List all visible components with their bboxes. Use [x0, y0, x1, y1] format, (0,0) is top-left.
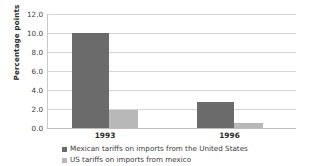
x-tick-label: 1993 [95, 131, 116, 140]
legend-item[interactable]: Mexican tariffs on imports from the Unit… [62, 144, 302, 154]
legend-item[interactable]: US tariffs on imports from mexico [62, 155, 302, 165]
bar [109, 110, 138, 128]
y-tick-label: 8.0 [1, 48, 43, 57]
y-tick-label: 0.0 [1, 124, 43, 133]
chart-legend: Mexican tariffs on imports from the Unit… [62, 144, 302, 166]
y-tick-label: 12.0 [1, 10, 43, 19]
bar [234, 123, 263, 128]
bars-layer [47, 14, 296, 128]
legend-swatch-icon [62, 147, 67, 152]
y-tick-label: 2.0 [1, 105, 43, 114]
bar [72, 33, 109, 128]
x-tick-label: 1996 [219, 131, 240, 140]
plot-area [47, 14, 296, 128]
legend-label: Mexican tariffs on imports from the Unit… [70, 144, 248, 154]
y-tick-label: 4.0 [1, 86, 43, 95]
y-tick-label: 10.0 [1, 29, 43, 38]
legend-label: US tariffs on imports from mexico [70, 155, 191, 165]
y-tick-label: 6.0 [1, 67, 43, 76]
y-axis-tick-labels: 0.02.04.06.08.010.012.0 [0, 14, 43, 128]
legend-swatch-icon [62, 158, 67, 163]
bar [197, 102, 234, 128]
x-axis-tick-labels: 19931996 [47, 129, 296, 143]
bar-chart: Percentage points 0.02.04.06.08.010.012.… [0, 0, 309, 166]
